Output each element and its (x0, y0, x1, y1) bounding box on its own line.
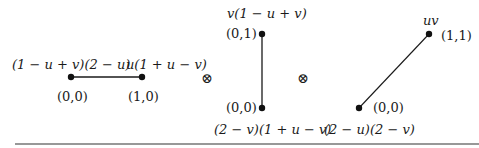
vertex-dot (139, 74, 145, 80)
coord-label: (0,0) (57, 90, 88, 104)
vertex-dot (426, 31, 432, 37)
weight-label: uv (423, 14, 439, 28)
coord-label: (0,0) (373, 101, 404, 115)
weight-label: u(1 + u − v) (126, 58, 207, 72)
coord-label: (0,0) (226, 101, 257, 115)
coord-label: (1,1) (441, 29, 472, 43)
edge-diagonal (359, 34, 429, 108)
tensor-operator: ⊗ (201, 71, 213, 85)
coord-label: (1,0) (128, 90, 159, 104)
weight-label: (2 − v)(1 + u − v) (214, 123, 331, 137)
vertex-dot (68, 74, 74, 80)
weight-label: (2 − u)(2 − v) (324, 123, 415, 137)
vertex-dot (356, 105, 362, 111)
weight-label: (1 − u + v)(2 − u) (12, 58, 130, 72)
weight-label: v(1 − u + v) (227, 7, 307, 21)
vertex-dot (259, 105, 265, 111)
coord-label: (0,1) (226, 27, 257, 41)
tensor-operator: ⊗ (297, 71, 309, 85)
vertex-dot (259, 31, 265, 37)
